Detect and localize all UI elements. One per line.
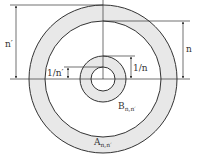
label-b-region: Bn,n′ — [118, 101, 136, 112]
label-one-over-n: 1/n — [133, 63, 148, 73]
label-n: n — [186, 44, 192, 54]
label-n-prime: n′ — [5, 39, 13, 49]
annulus-diagram: n′ n 1/n 1/n′ Bn,n′ An,n′ — [0, 0, 200, 161]
label-one-over-n-prime: 1/n′ — [47, 68, 64, 78]
